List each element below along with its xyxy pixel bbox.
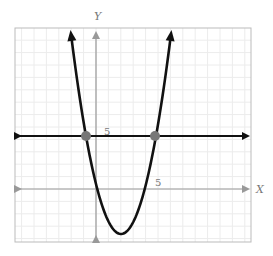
intersection-point-left — [81, 131, 91, 141]
intersection-point-right — [150, 131, 160, 141]
parabola-graph: Y X 5 5 — [0, 0, 273, 256]
x-tick-label-5: 5 — [155, 177, 161, 188]
arrow-up-left-icon — [67, 30, 76, 41]
y-axis-label: Y — [94, 10, 103, 23]
x-axis-label: X — [255, 183, 265, 196]
